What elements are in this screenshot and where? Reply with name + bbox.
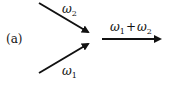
- omega-symbol: ω: [62, 64, 72, 78]
- subscript: 1: [120, 27, 125, 36]
- frequency-mixing-diagram: (a) ω2 ω1 ω1+ω2: [0, 0, 173, 85]
- subscript: 2: [147, 27, 152, 36]
- omega1-label: ω1: [62, 64, 77, 80]
- subscript: 2: [72, 9, 77, 18]
- omega-symbol: ω: [137, 20, 147, 34]
- omega2-label: ω2: [62, 2, 77, 18]
- panel-label: (a): [6, 32, 23, 46]
- subscript: 1: [72, 71, 77, 80]
- omega-symbol: ω: [110, 20, 120, 34]
- arrows-layer: [0, 0, 173, 85]
- omega-symbol: ω: [62, 2, 72, 16]
- output-label: ω1+ω2: [110, 20, 152, 36]
- plus-sign: +: [126, 20, 136, 34]
